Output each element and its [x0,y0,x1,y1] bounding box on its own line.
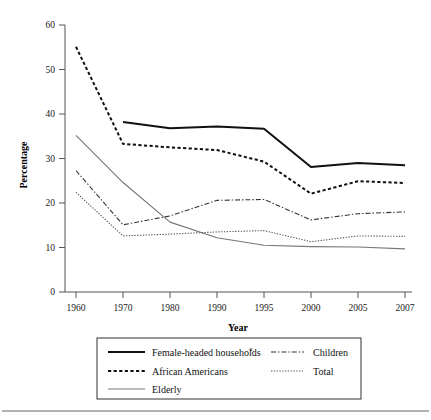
legend: Female-headed households a African Ameri… [97,338,361,399]
x-tick-label-2005: 2005 [349,303,368,313]
series-children [76,171,405,225]
series-total [76,192,405,241]
y-tick-label-50: 50 [46,65,56,75]
legend-item-african-americans[interactable]: African Americans [108,366,228,377]
legend-item-elderly[interactable]: Elderly [108,384,181,395]
y-tick-label-60: 60 [46,20,56,30]
legend-label-total: Total [313,366,334,377]
y-tick-label-20: 20 [46,198,56,208]
series-group [76,47,405,249]
y-tick-label-30: 30 [46,154,56,164]
y-tick-label-40: 40 [46,109,56,119]
legend-superscript-a: a [250,345,253,352]
y-tick-label-10: 10 [46,243,56,253]
legend-item-total[interactable]: Total [271,366,334,377]
y-axis-ticks: 60 50 40 30 20 10 0 [46,20,66,297]
x-axis-title: Year [228,322,249,333]
legend-label-african-americans: African Americans [152,366,228,377]
x-axis-ticks: 1960 1970 1980 1990 1995 2000 2005 2007 [67,292,415,313]
line-chart: Percentage 60 50 40 30 20 10 0 1960 [0,0,431,420]
legend-label-children: Children [313,347,348,358]
x-tick-label-1970: 1970 [114,303,133,313]
legend-item-children[interactable]: Children [271,347,348,358]
legend-item-female-headed-households[interactable]: Female-headed households a [108,345,261,358]
legend-label-elderly: Elderly [152,384,181,395]
series-elderly [76,135,405,248]
y-tick-label-0: 0 [50,287,55,297]
y-axis-title: Percentage [18,141,29,189]
x-tick-label-2000: 2000 [302,303,321,313]
legend-label-female-headed-households: Female-headed households [152,347,261,358]
series-female-headed-households [123,122,405,167]
x-tick-label-1980: 1980 [161,303,180,313]
x-tick-label-1990: 1990 [208,303,227,313]
x-tick-label-1995: 1995 [255,303,274,313]
x-tick-label-2007: 2007 [396,303,415,313]
x-tick-label-1960: 1960 [67,303,86,313]
series-african-americans [76,47,405,194]
figure-container: Percentage 60 50 40 30 20 10 0 1960 [0,0,431,420]
